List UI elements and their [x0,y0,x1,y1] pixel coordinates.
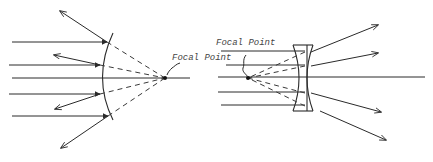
convex-mirror [103,33,114,120]
optics-diagram: Focal Point [0,0,433,162]
convex-mirror-diagram: Focal Point [9,11,231,148]
focal-point-marker [163,76,167,80]
virtual-extensions [100,42,165,116]
refracted-rays [311,25,386,140]
diverging-lens-diagram: Focal Point [216,25,425,140]
focal-point-label: Focal Point [172,53,231,63]
focal-point-pointer [167,63,180,75]
focal-point-pointer [243,55,248,77]
focal-point-label: Focal Point [216,38,275,48]
incident-rays [9,42,108,116]
reflected-rays [54,11,108,148]
